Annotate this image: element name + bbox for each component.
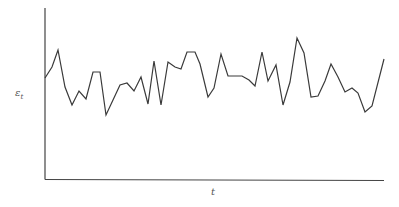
y-axis-label: εt bbox=[15, 87, 23, 101]
x-axis bbox=[45, 180, 384, 181]
x-axis-label: t bbox=[211, 186, 215, 197]
y-axis-label-subscript: t bbox=[20, 93, 23, 101]
series-line bbox=[45, 38, 384, 115]
time-series-chart bbox=[0, 0, 399, 207]
